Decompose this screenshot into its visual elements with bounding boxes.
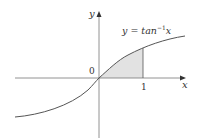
shaded-area [99,48,143,78]
y-axis-arrow-icon [97,11,102,17]
function-label-y: y = tan [121,25,157,36]
arctan-curve [15,36,185,117]
arctan-graph: y x 0 1 y = tan−1x [0,0,201,140]
function-label: y = tan−1x [121,24,172,36]
tick-label-1: 1 [141,82,147,92]
function-exponent: −1 [157,24,166,31]
y-axis-label: y [88,8,95,19]
x-axis-label: x [182,79,188,90]
function-var: x [166,25,172,36]
origin-label: 0 [89,66,95,76]
